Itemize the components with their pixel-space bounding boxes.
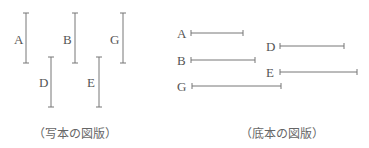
segment-label: B <box>63 32 72 47</box>
manuscript-segment-d: D <box>39 57 54 107</box>
segment-label: D <box>266 39 275 54</box>
segment-label: D <box>39 75 48 90</box>
segment-label: E <box>266 65 274 80</box>
manuscript-segment-b: B <box>63 13 78 63</box>
base-text-segment-e: E <box>266 65 357 80</box>
segment-label: A <box>14 32 24 47</box>
base-text-caption: （底本の図版） <box>240 124 324 141</box>
segment-label: A <box>177 26 187 41</box>
base-text-segment-b: B <box>177 53 255 68</box>
segment-label: B <box>177 53 186 68</box>
base-text-segment-g: G <box>177 79 281 94</box>
base-text-segment-d: D <box>266 39 344 54</box>
segment-label: E <box>87 75 95 90</box>
manuscript-caption: （写本の図版） <box>33 124 117 141</box>
segment-label: G <box>110 32 119 47</box>
segment-label: G <box>177 79 186 94</box>
manuscript-segment-g: G <box>110 13 126 63</box>
base-text-segment-a: A <box>177 26 243 41</box>
manuscript-segment-a: A <box>14 13 29 63</box>
manuscript-segment-e: E <box>87 57 102 107</box>
